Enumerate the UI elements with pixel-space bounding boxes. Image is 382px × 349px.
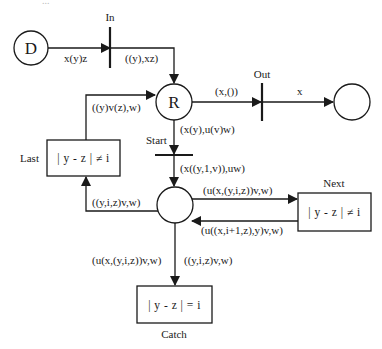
arc-label-r-to-start: (x(y),u(v)w) (180, 123, 235, 136)
arc-label-start-to-loop: (x((y,1,v)),uw) (180, 162, 245, 175)
transition-next: | y - z | ≠ i (298, 193, 371, 231)
transition-out-label: Out (254, 68, 271, 80)
transition-catch-label: Catch (161, 328, 187, 340)
transition-last: | y - z | ≠ i (47, 140, 120, 176)
arc-label-in-to-r: ((y),xz) (125, 52, 159, 65)
arc-label-loop-to-catch: (u(x,(y,i,z))v,w) (92, 254, 162, 267)
place-r-label: R (168, 93, 180, 112)
place-loop (157, 187, 193, 223)
place-output (334, 84, 370, 120)
transition-start-label: Start (146, 134, 167, 146)
place-d-label: D (25, 39, 37, 58)
transition-catch: | y - z | = i (137, 286, 212, 323)
place-d: D (14, 31, 48, 65)
petri-net-diagram: ... D R In Out Start | y - z | ≠ i (0, 0, 382, 349)
arc-label-last-to-r: ((y)v(z),w) (92, 101, 141, 114)
arc-label-d-to-in: x(y)z (64, 52, 87, 65)
arc-label-r-to-out: (x,()) (215, 85, 238, 98)
arc-label-loop-to-last: ((y,i,z)v,w) (92, 196, 141, 209)
arc-label-out-to-place: x (297, 85, 303, 97)
transition-in-label: In (105, 11, 115, 23)
transition-next-guard: | y - z | ≠ i (308, 206, 361, 219)
transition-catch-guard: | y - z | = i (148, 299, 201, 312)
arc-label-loop-to-next: (u(x,(y,i,z))v,w) (203, 184, 273, 197)
cutoff-text: ... (42, 0, 50, 6)
arc-label-catch-out: ((y,i,z)v,w) (184, 254, 233, 267)
place-r: R (156, 84, 192, 120)
transition-last-label: Last (20, 152, 39, 164)
transition-next-label: Next (323, 177, 344, 189)
arc-label-next-to-loop: (u((x,i+1,z),y)v,w) (201, 224, 283, 237)
transition-last-guard: | y - z | ≠ i (57, 152, 110, 165)
